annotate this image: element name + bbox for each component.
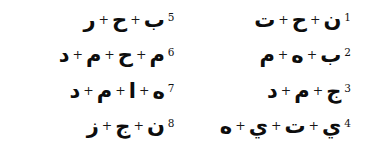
plus-sign: + — [268, 118, 284, 133]
plus-sign: + — [112, 83, 128, 98]
plus-sign: + — [232, 118, 248, 133]
plus-sign: + — [304, 47, 320, 62]
item-number: 6 — [168, 45, 175, 58]
arabic-letter: ج — [115, 116, 130, 137]
plus-sign: + — [133, 47, 149, 62]
arabic-letter: د — [59, 45, 70, 66]
letter-expression: ه+ا+م+د — [70, 81, 165, 102]
item-number: 8 — [168, 116, 175, 129]
exercise-item-2: 2 ب+ه+م — [187, 45, 352, 80]
letter-expression: ب+ح+ر — [84, 10, 165, 31]
exercise-item-5: 5 ب+ح+ر — [10, 10, 175, 45]
plus-sign: + — [101, 47, 117, 62]
letter-expression: ج+م+د — [267, 81, 341, 102]
arabic-letter: ه — [152, 81, 164, 102]
letter-expression: م+ح+م+د — [59, 45, 165, 66]
plus-sign: + — [136, 83, 152, 98]
exercise-item-6: 6 م+ح+م+د — [10, 45, 175, 80]
arabic-letter: م — [294, 81, 309, 102]
plus-sign: + — [127, 12, 143, 27]
arabic-letter: ه — [291, 45, 303, 66]
arabic-letter: ج — [326, 81, 341, 102]
exercise-item-8: 8 ن+ج+ز — [10, 116, 175, 151]
arabic-letter: د — [70, 81, 81, 102]
plus-sign: + — [99, 118, 115, 133]
exercise-item-4: 4 ي+ت+ي+ه — [187, 116, 352, 151]
arabic-letter: ر — [84, 10, 96, 31]
arabic-letter: ح — [112, 10, 127, 31]
exercise-item-7: 7 ه+ا+م+د — [10, 81, 175, 116]
plus-sign: + — [306, 118, 322, 133]
plus-sign: + — [275, 47, 291, 62]
arabic-letter: ح — [292, 10, 307, 31]
worksheet-page: 1 ن+ح+ت 2 ب+ه+م 3 ج+م+د 4 ي+ت+ي+ه 5 — [0, 0, 365, 163]
arabic-letter: ي — [249, 116, 268, 137]
arabic-letter: ن — [147, 116, 165, 137]
arabic-letter: ت — [254, 10, 275, 31]
exercise-item-1: 1 ن+ح+ت — [187, 10, 352, 45]
arabic-letter: ا — [129, 81, 136, 102]
arabic-letter: ه — [220, 116, 232, 137]
letter-expression: ن+ح+ت — [254, 10, 341, 31]
item-number: 4 — [344, 116, 351, 129]
plus-sign: + — [307, 12, 323, 27]
letter-expression: ب+ه+م — [259, 45, 341, 66]
arabic-letter: م — [149, 45, 164, 66]
plus-sign: + — [275, 12, 291, 27]
arabic-letter: م — [86, 45, 101, 66]
letter-expression: ي+ت+ي+ه — [220, 116, 341, 137]
item-number: 7 — [168, 81, 175, 94]
plus-sign: + — [130, 118, 146, 133]
arabic-letter: ح — [118, 45, 133, 66]
plus-sign: + — [96, 12, 112, 27]
arabic-letter: م — [259, 45, 274, 66]
letter-expression: ن+ج+ز — [87, 116, 165, 137]
exercise-column-right: 1 ن+ح+ت 2 ب+ه+م 3 ج+م+د 4 ي+ت+ي+ه — [187, 4, 352, 159]
exercise-item-3: 3 ج+م+د — [187, 81, 352, 116]
item-number: 1 — [344, 10, 351, 23]
arabic-letter: م — [97, 81, 112, 102]
exercise-column-left: 5 ب+ح+ر 6 م+ح+م+د 7 ه+ا+م+د 8 ن+ج+ز — [10, 4, 175, 159]
plus-sign: + — [278, 83, 294, 98]
item-number: 3 — [344, 81, 351, 94]
arabic-letter: ب — [320, 45, 341, 66]
item-number: 5 — [168, 10, 175, 23]
arabic-letter: د — [267, 81, 278, 102]
arabic-letter: ت — [284, 116, 305, 137]
arabic-letter: ب — [144, 10, 165, 31]
arabic-letter: ي — [322, 116, 341, 137]
plus-sign: + — [80, 83, 96, 98]
arabic-letter: ن — [323, 10, 341, 31]
plus-sign: + — [310, 83, 326, 98]
arabic-letter: ز — [87, 116, 99, 137]
plus-sign: + — [69, 47, 85, 62]
item-number: 2 — [344, 45, 351, 58]
